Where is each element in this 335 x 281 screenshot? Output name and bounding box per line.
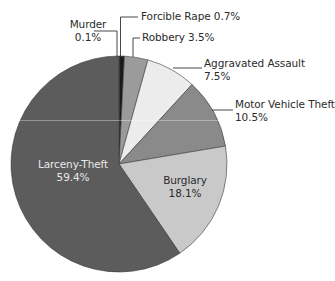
scan-artifact-line	[10, 120, 230, 121]
label-murder: Murder 0.1%	[58, 18, 118, 44]
label-motor-vehicle-theft: Motor Vehicle Theft 10.5%	[235, 98, 335, 124]
label-burglary-pct: 18.1%	[150, 187, 220, 200]
label-larceny-theft-name: Larceny-Theft	[28, 158, 118, 171]
label-motor-vehicle-theft-pct: 10.5%	[235, 111, 335, 124]
label-burglary: Burglary 18.1%	[150, 174, 220, 200]
label-burglary-name: Burglary	[150, 174, 220, 187]
label-motor-vehicle-theft-name: Motor Vehicle Theft	[235, 98, 335, 111]
label-murder-pct: 0.1%	[58, 31, 118, 44]
label-aggravated-assault-name: Aggravated Assault	[204, 57, 305, 70]
label-larceny-theft-pct: 59.4%	[28, 171, 118, 184]
label-murder-name: Murder	[58, 18, 118, 31]
leader-line-forcible-rape	[121, 17, 139, 57]
label-forcible-rape: Forcible Rape 0.7%	[141, 10, 240, 23]
label-larceny-theft: Larceny-Theft 59.4%	[28, 158, 118, 184]
label-robbery: Robbery 3.5%	[142, 31, 214, 44]
label-aggravated-assault: Aggravated Assault 7.5%	[204, 57, 305, 83]
leader-line-robbery	[133, 38, 140, 57]
label-aggravated-assault-pct: 7.5%	[204, 70, 305, 83]
